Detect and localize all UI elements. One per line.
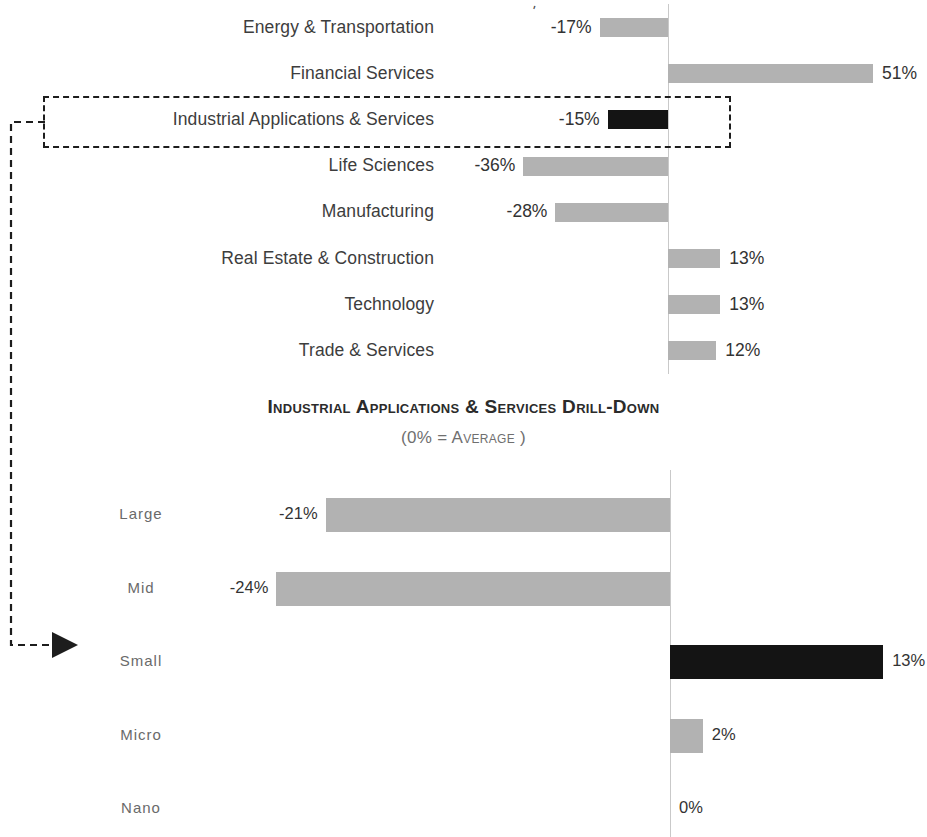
value-label: 13% [729, 248, 764, 269]
category-label: Life Sciences [329, 155, 434, 176]
bar-highlighted [670, 645, 883, 679]
value-label: -28% [507, 201, 548, 222]
value-label: 13% [729, 294, 764, 315]
value-label: 0% [679, 798, 703, 817]
category-label: Small [80, 652, 202, 669]
bar [555, 203, 668, 222]
bar [523, 157, 668, 176]
drilldown-title: Industrial Applications & Services Drill… [0, 396, 927, 418]
chart-canvas: ' Energy & Transportation-17%Financial S… [0, 0, 927, 837]
stray-apostrophe-mark: ' [529, 2, 537, 19]
value-label: 51% [882, 63, 917, 84]
value-label: -21% [279, 504, 318, 523]
value-label: -36% [474, 155, 515, 176]
bar-highlighted [608, 110, 668, 129]
category-label: Nano [80, 799, 202, 816]
category-label: Technology [344, 294, 434, 315]
bar [668, 64, 873, 83]
category-label: Mid [80, 579, 202, 596]
top-chart-zero-axis [668, 4, 669, 374]
value-label: -17% [551, 17, 592, 38]
category-label: Industrial Applications & Services [173, 109, 434, 130]
category-label: Micro [80, 726, 202, 743]
drilldown-subtitle: (0% = Average ) [0, 428, 927, 448]
category-label: Financial Services [290, 63, 434, 84]
value-label: 2% [712, 725, 736, 744]
category-label: Energy & Transportation [243, 17, 434, 38]
bar [326, 498, 670, 532]
value-label: -15% [559, 109, 600, 130]
bar [668, 249, 720, 268]
category-label: Trade & Services [299, 340, 434, 361]
category-label: Real Estate & Construction [221, 248, 434, 269]
category-label: Manufacturing [322, 201, 434, 222]
bar [670, 719, 703, 753]
connector-arrowhead [52, 632, 78, 658]
bar [600, 18, 668, 37]
bar [276, 572, 670, 606]
bar [668, 341, 716, 360]
value-label: 13% [892, 651, 925, 670]
value-label: 12% [725, 340, 760, 361]
value-label: -24% [230, 578, 269, 597]
category-label: Large [80, 505, 202, 522]
bar [668, 295, 720, 314]
